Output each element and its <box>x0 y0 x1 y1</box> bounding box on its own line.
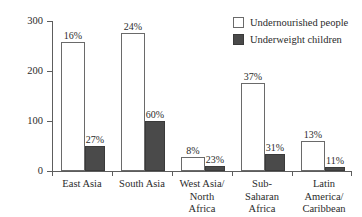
bar-label-underweight-west-asia-north-africa: 23% <box>206 154 224 166</box>
bar-undernourished-sub-saharan-africa[interactable]: 37% <box>241 83 265 171</box>
x-tick-3 <box>232 172 233 176</box>
bar-undernourished-latin-america-caribbean[interactable]: 13% <box>301 141 325 171</box>
bar-underweight-east-asia[interactable]: 27% <box>85 146 105 171</box>
bar-undernourished-east-asia[interactable]: 16% <box>61 42 85 171</box>
bar-undernourished-west-asia-north-africa[interactable]: 8% <box>181 157 205 171</box>
bar-label-undernourished-west-asia-north-africa: 8% <box>186 145 199 157</box>
y-tick-label-300: 300 <box>27 14 43 27</box>
bar-label-undernourished-south-asia: 24% <box>124 21 142 33</box>
x-tick-4 <box>292 172 293 176</box>
x-category-line: Caribbean <box>290 203 358 216</box>
x-tick-end <box>351 172 352 176</box>
x-tick-start <box>52 172 53 176</box>
x-category-label-south-asia: South Asia <box>112 178 172 191</box>
x-tick-2 <box>172 172 173 176</box>
x-category-line: America/ <box>290 191 358 204</box>
x-category-line: North <box>170 191 234 204</box>
x-category-label-east-asia: East Asia <box>52 178 112 191</box>
x-category-label-west-asia-north-africa: West Asia/ North Africa <box>170 178 234 216</box>
y-tick-label-0: 0 <box>38 164 43 177</box>
legend-label: Underweight children <box>250 34 342 46</box>
x-tick-1 <box>112 172 113 176</box>
legend-label: Undernourished people <box>250 17 348 29</box>
bar-label-undernourished-sub-saharan-africa: 37% <box>244 71 262 83</box>
x-category-line: Saharan <box>232 191 292 204</box>
bar-chart: Millions 0 100 200 300 16% 27% <box>0 0 362 217</box>
bar-group-south-asia: 24% 60% <box>112 21 172 171</box>
bar-label-undernourished-east-asia: 16% <box>64 30 82 42</box>
bar-label-undernourished-latin-america-caribbean: 13% <box>304 129 322 141</box>
x-category-line: South Asia <box>112 178 172 191</box>
bar-group-east-asia: 16% 27% <box>52 21 112 171</box>
x-category-line: Sub- <box>232 178 292 191</box>
y-tick-label-100: 100 <box>27 114 43 127</box>
x-category-label-sub-saharan-africa: Sub- Saharan Africa <box>232 178 292 216</box>
bar-label-underweight-east-asia: 27% <box>86 134 104 146</box>
light-square-swatch-icon <box>233 17 244 28</box>
dark-square-swatch-icon <box>233 34 244 45</box>
bar-group-west-asia-north-africa: 8% 23% <box>172 21 232 171</box>
legend-item-underweight-children[interactable]: Underweight children <box>233 32 348 47</box>
bar-underweight-latin-america-caribbean[interactable]: 11% <box>325 167 345 171</box>
bar-label-underweight-south-asia: 60% <box>146 109 164 121</box>
x-category-label-latin-america-caribbean: Latin America/ Caribbean <box>290 178 358 216</box>
bar-underweight-sub-saharan-africa[interactable]: 31% <box>265 154 285 171</box>
bar-underweight-south-asia[interactable]: 60% <box>145 121 165 171</box>
x-axis-line <box>52 171 352 172</box>
bar-undernourished-south-asia[interactable]: 24% <box>121 33 145 171</box>
x-category-line: Africa <box>232 203 292 216</box>
bar-label-underweight-latin-america-caribbean: 11% <box>326 155 344 167</box>
y-tick-label-200: 200 <box>27 64 43 77</box>
chart-legend: Undernourished people Underweight childr… <box>233 15 348 49</box>
x-category-line: Latin <box>290 178 358 191</box>
legend-item-undernourished-people[interactable]: Undernourished people <box>233 15 348 30</box>
bar-underweight-west-asia-north-africa[interactable]: 23% <box>205 166 225 171</box>
bar-label-underweight-sub-saharan-africa: 31% <box>266 142 284 154</box>
x-category-line: East Asia <box>52 178 112 191</box>
x-category-line: West Asia/ <box>170 178 234 191</box>
x-category-line: Africa <box>170 203 234 216</box>
